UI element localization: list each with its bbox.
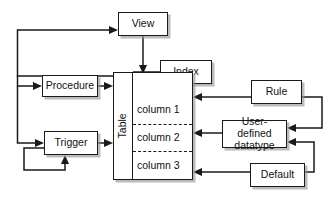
- node-table[interactable]: Table column 1 column 2 column 3: [113, 72, 193, 180]
- table-header-spacer: [133, 73, 192, 97]
- arrowhead-table-trigger-in: [104, 139, 113, 147]
- node-trigger[interactable]: Trigger: [44, 131, 98, 155]
- arrowhead-trigger-self-in: [61, 155, 69, 164]
- node-default[interactable]: Default: [250, 163, 305, 187]
- table-row-column-2[interactable]: column 2: [133, 124, 192, 152]
- node-rule-label: Rule: [264, 86, 290, 98]
- node-default-label: Default: [259, 169, 296, 181]
- wire-bus-to-procedure: [18, 76, 35, 86]
- arrowhead-udt-lower-in: [287, 138, 296, 146]
- table-column-list: column 1 column 2 column 3: [133, 73, 192, 179]
- node-view-label: View: [130, 18, 157, 30]
- arrowhead-column2-in: [193, 129, 202, 137]
- arrowhead-column3-in: [193, 168, 202, 176]
- table-row-column-1[interactable]: column 1: [133, 97, 192, 124]
- arrowhead-table-procedure-in: [104, 82, 113, 90]
- node-user-defined-datatype-label: User-defined datatype: [223, 116, 286, 151]
- table-side-band: Table: [114, 73, 133, 179]
- wire-bus-to-trigger: [18, 86, 37, 143]
- wire-table-to-view: [18, 30, 114, 76]
- table-column-3-label: column 3: [137, 160, 180, 172]
- table-column-1-label: column 1: [137, 104, 180, 116]
- node-trigger-label: Trigger: [53, 137, 90, 149]
- node-procedure-label: Procedure: [44, 80, 96, 92]
- node-user-defined-datatype[interactable]: User-defined datatype: [222, 120, 287, 148]
- table-column-2-label: column 2: [137, 132, 180, 144]
- diagram-canvas: View Index Procedure Trigger Rule User-d…: [0, 0, 335, 203]
- table-row-column-3[interactable]: column 3: [133, 151, 192, 179]
- node-table-label: Table: [117, 113, 129, 138]
- arrowhead-udt-upper-in: [287, 124, 296, 132]
- node-procedure[interactable]: Procedure: [42, 75, 98, 97]
- arrowhead-trigger-in: [35, 139, 44, 147]
- node-rule[interactable]: Rule: [251, 80, 302, 104]
- node-view[interactable]: View: [118, 12, 168, 36]
- arrowhead-view-in: [109, 26, 118, 34]
- arrowhead-procedure-in: [33, 82, 42, 90]
- arrowhead-column1-in: [193, 93, 202, 101]
